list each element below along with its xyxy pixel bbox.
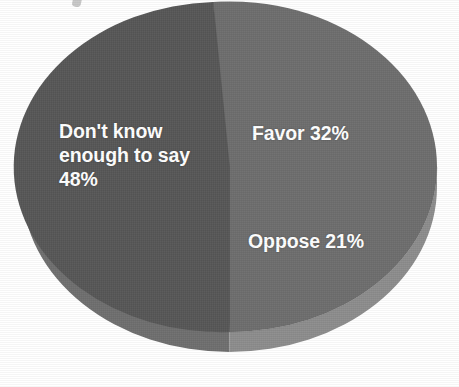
pie-chart-figure: Don't know enough to say 48% Favor 32% O… <box>0 0 459 387</box>
pie-chart-plot-area: Don't know enough to say 48% Favor 32% O… <box>0 0 459 387</box>
pie-chart-svg <box>0 0 459 387</box>
pie-label-favor: Favor 32% <box>252 122 349 146</box>
pie-label-dont-know: Don't know enough to say 48% <box>59 120 234 191</box>
pie-label-oppose: Oppose 21% <box>248 230 364 254</box>
